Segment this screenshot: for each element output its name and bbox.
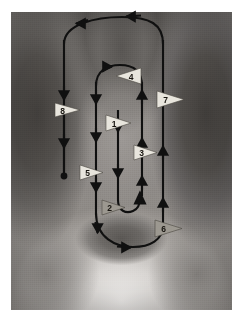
figure-root: 8 4 7 1 3 5 2: [0, 0, 245, 324]
photograph-background: [11, 12, 232, 310]
photo-vignette: [11, 12, 232, 310]
